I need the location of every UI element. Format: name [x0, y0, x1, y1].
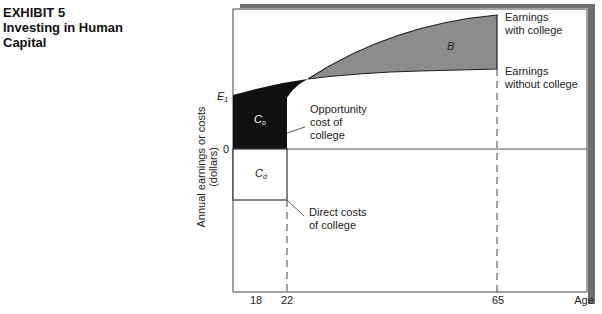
zero-label: 0 [223, 143, 229, 155]
e1-label: E1 [217, 90, 228, 103]
frame-shadow-right [588, 4, 595, 304]
opportunity-label-3: college [310, 129, 345, 141]
tick-18: 18 [250, 294, 262, 306]
y-axis-title-line2: (dollars) [207, 147, 219, 187]
x-axis-title: Age [574, 294, 594, 306]
frame-shadow-top [240, 4, 595, 8]
direct-label-1: Direct costs [309, 206, 367, 218]
region-b-label: B [447, 40, 454, 52]
human-capital-chart: Co Cd B E1 0 Annual earnings or costs (d… [0, 0, 602, 314]
opportunity-label-2: cost of [310, 116, 343, 128]
tick-22: 22 [281, 294, 293, 306]
tick-65: 65 [492, 294, 504, 306]
without-college-label-2: without college [504, 78, 578, 90]
without-college-label-1: Earnings [505, 65, 549, 77]
with-college-label-2: with college [504, 24, 562, 36]
with-college-label-1: Earnings [505, 11, 549, 23]
direct-label-2: of college [309, 219, 356, 231]
y-axis-title-line1: Annual earnings or costs [195, 106, 207, 228]
opportunity-label-1: Opportunity [310, 103, 367, 115]
